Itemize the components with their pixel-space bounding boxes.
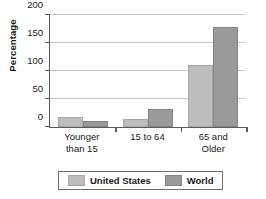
legend-item: World [165, 175, 214, 186]
chart-legend: United StatesWorld [58, 171, 223, 190]
y-axis-tick-label: 150 [27, 27, 43, 38]
bar-group [115, 15, 180, 127]
bar [123, 119, 148, 127]
y-axis-tick-label: 0 [38, 111, 43, 122]
legend-item-label: United States [90, 175, 151, 186]
legend-item-label: World [187, 175, 214, 186]
bars-layer [50, 15, 246, 127]
y-axis-tick-label: 100 [27, 55, 43, 66]
x-axis-category-labels: Youngerthan 1515 to 6465 andOlder [49, 131, 246, 154]
x-axis-category-label: 15 to 64 [115, 131, 181, 154]
bar [188, 65, 213, 127]
x-axis-category-label-line: 65 and [180, 131, 246, 143]
y-axis-title: Percentage [7, 10, 18, 82]
x-axis-category-label: Youngerthan 15 [49, 131, 115, 154]
bar-chart-figure: Percentage 050100150200 Youngerthan 1515… [0, 0, 266, 199]
plot-area: 050100150200 [49, 15, 246, 128]
bar-group [50, 15, 115, 127]
x-axis-category-label-line: 15 to 64 [115, 131, 181, 143]
bar-group [181, 15, 246, 127]
x-axis-tick [246, 127, 248, 132]
bar [148, 109, 173, 127]
y-axis-tick-label: 50 [32, 83, 43, 94]
legend-swatch-united-states [68, 175, 85, 186]
bar [58, 117, 83, 127]
bar [213, 27, 238, 127]
bar [83, 121, 108, 127]
x-axis-category-label: 65 andOlder [180, 131, 246, 154]
legend-item: United States [68, 175, 151, 186]
x-axis-category-label-line: than 15 [49, 143, 115, 155]
legend-swatch-world [165, 175, 182, 186]
x-axis-category-label-line: Younger [49, 131, 115, 143]
x-axis-category-label-line: Older [180, 143, 246, 155]
y-axis-tick-label: 200 [27, 0, 43, 10]
